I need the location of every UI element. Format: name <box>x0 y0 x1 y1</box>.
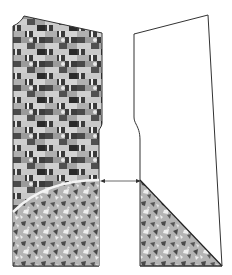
right-pattern-piece <box>134 15 222 266</box>
connector-arrow <box>100 179 141 183</box>
arrowhead-left-icon <box>100 179 105 183</box>
pattern-diagram <box>0 0 232 275</box>
left-pattern-piece <box>13 16 102 266</box>
